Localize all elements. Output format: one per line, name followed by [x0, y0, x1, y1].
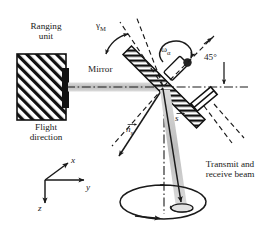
normal-vector-group — [112, 88, 163, 156]
vector-n-overbar-wrap: n — [126, 124, 131, 134]
vector-n-label: ns — [126, 124, 133, 136]
flight-direction-label: Flight direction — [10, 122, 82, 143]
outgoing-dashed-rays — [204, 104, 244, 143]
omega-sub: α — [167, 49, 170, 56]
omega-label: ωα — [161, 44, 171, 56]
ground-footprint — [170, 204, 193, 212]
axis-x-label: x — [71, 155, 75, 165]
coordinate-triad — [45, 163, 84, 203]
vector-n-arrow — [119, 88, 163, 156]
ranging-unit-block — [17, 54, 69, 120]
vector-n-arrow-glyph — [126, 123, 139, 126]
lidar-scanner-diagram: Ranging unit Flight direction Mirror Tra… — [0, 0, 272, 231]
gamma-mirror-label: γM — [96, 20, 106, 32]
ranging-unit-label: Ranging unit — [12, 21, 80, 42]
ranging-unit-aperture — [62, 68, 69, 108]
scan-rotation-circle — [120, 185, 206, 219]
axis-x-arrow — [45, 163, 68, 180]
vector-s-arrow-glyph — [175, 112, 187, 115]
gamma-sub: M — [100, 25, 106, 32]
transmit-receive-beam-label: Transmit and receive beam — [190, 159, 270, 180]
mirror-rotation-hub — [164, 56, 192, 81]
vector-s-label: s — [175, 113, 179, 123]
vector-s-overbar-wrap: s — [175, 113, 179, 123]
mirror-label: Mirror — [88, 64, 113, 74]
axis-z-label: z — [38, 203, 42, 213]
axis-y-label: y — [86, 182, 90, 192]
normal-dashed-ray — [112, 88, 163, 146]
angle-45-label: 45° — [204, 52, 217, 62]
secondary-facet — [191, 87, 217, 111]
gamma-mirror-angle-arrow — [106, 34, 128, 54]
